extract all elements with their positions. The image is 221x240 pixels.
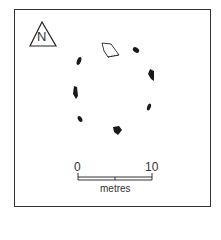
scale-end-label: 10 [145, 161, 158, 173]
stone-se [146, 103, 152, 111]
stone-w [73, 86, 78, 99]
stone-ne [132, 46, 140, 54]
stone-sw [77, 115, 84, 123]
standing-stones [73, 46, 154, 135]
stone-nw [76, 56, 83, 65]
stone-s [113, 126, 122, 135]
scale-start-label: 0 [74, 161, 81, 173]
north-label: N [37, 30, 46, 43]
scale-unit-label: metres [100, 184, 131, 194]
stone-e [148, 69, 154, 81]
scale-bar [78, 173, 152, 180]
fallen-stone-outline [102, 43, 119, 57]
